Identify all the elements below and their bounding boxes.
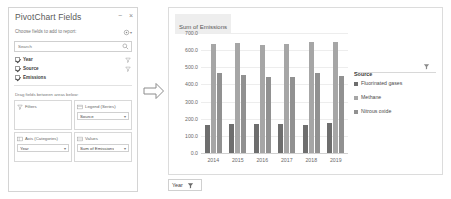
filter-icon[interactable] xyxy=(423,63,430,70)
x-axis-line xyxy=(201,153,348,154)
filter-icon[interactable] xyxy=(187,182,194,189)
y-axis-tick-label: 100.0 xyxy=(185,133,198,139)
y-axis-tick-label: 700.0 xyxy=(185,30,198,36)
page-title: PivotChart Fields xyxy=(15,11,133,23)
search-icon xyxy=(122,43,129,50)
zone-header: Values xyxy=(77,135,129,142)
zone-values[interactable]: Values Sum of Emissions ▾ xyxy=(74,132,132,162)
bar[interactable] xyxy=(254,124,259,154)
legend-item: Nitrous oxide xyxy=(354,108,436,115)
field-chip-sum-of-emissions[interactable]: Sum of Emissions ▾ xyxy=(77,144,129,152)
chevron-down-icon[interactable]: ▾ xyxy=(124,114,126,120)
zone-header: Axis (Categories) xyxy=(17,135,69,142)
bar[interactable] xyxy=(278,124,283,154)
bar-group: 2015 xyxy=(229,34,246,154)
drag-fields-hint: Drag fields between areas below: xyxy=(15,92,137,97)
legend: Source Fluorinated gasesMethaneNitrous o… xyxy=(354,62,436,115)
filter-icon[interactable] xyxy=(125,57,131,63)
zone-header: Legend (Series) xyxy=(77,103,129,110)
legend-header: Source xyxy=(354,62,436,73)
bar-series-container: 201420152016201720182019 xyxy=(201,34,348,154)
legend-item: Methane xyxy=(354,94,436,101)
fields-subtitle: Choose fields to add to report: xyxy=(15,26,133,37)
legend-title: Source xyxy=(354,71,372,77)
zone-title: Values xyxy=(85,136,98,142)
zone-axis-categories[interactable]: Axis (Categories) Year ▾ xyxy=(14,132,72,162)
pivotchart-fields-panel: PivotChart Fields − × Choose fields to a… xyxy=(8,7,138,192)
legend-icon xyxy=(77,104,83,110)
checkbox-year[interactable] xyxy=(15,57,20,62)
bar[interactable] xyxy=(290,77,295,154)
pivotchart-panel: Sum of Emissions 0.0100.0200.0300.0400.0… xyxy=(168,7,443,192)
checkbox-emissions[interactable] xyxy=(15,75,20,80)
bar[interactable] xyxy=(303,125,308,154)
zone-filters[interactable]: Filters xyxy=(14,100,72,130)
bar[interactable] xyxy=(235,43,240,154)
zone-title: Filters xyxy=(25,104,37,110)
search-box[interactable] xyxy=(14,41,132,52)
bar[interactable] xyxy=(260,45,265,154)
bar[interactable] xyxy=(205,125,210,154)
bar[interactable] xyxy=(309,42,314,154)
bar[interactable] xyxy=(327,123,332,154)
values-icon xyxy=(77,136,83,142)
drop-zones: Filters Legend (Series) Source ▾ xyxy=(14,100,132,162)
legend-label: Nitrous oxide xyxy=(361,108,391,115)
fields-subtitle-row: Choose fields to add to report: ▾ xyxy=(9,26,137,40)
x-axis-tick-label: 2014 xyxy=(207,157,219,163)
list-item[interactable]: Emissions xyxy=(14,73,132,82)
bar[interactable] xyxy=(284,44,289,154)
bar[interactable] xyxy=(241,75,246,154)
bar-group: 2017 xyxy=(278,34,295,154)
zone-title: Legend (Series) xyxy=(85,104,116,110)
search-input[interactable] xyxy=(18,42,108,51)
bar[interactable] xyxy=(315,73,320,154)
field-list: Year Source Emissions xyxy=(14,55,132,86)
legend-label: Methane xyxy=(361,94,381,101)
x-axis-tick-label: 2015 xyxy=(232,157,244,163)
bar-group: 2018 xyxy=(303,34,320,154)
bar[interactable] xyxy=(211,44,216,154)
list-item[interactable]: Year xyxy=(14,55,132,64)
zone-legend-series[interactable]: Legend (Series) Source ▾ xyxy=(74,100,132,130)
checkbox-source[interactable] xyxy=(15,66,20,71)
zone-title: Axis (Categories) xyxy=(25,136,58,142)
year-filter-button[interactable]: Year xyxy=(168,179,202,191)
legend-items: Fluorinated gasesMethaneNitrous oxide xyxy=(354,80,436,115)
legend-swatch xyxy=(354,110,358,114)
bar[interactable] xyxy=(339,76,344,154)
y-axis-tick-label: 300.0 xyxy=(185,99,198,105)
year-filter-label: Year xyxy=(172,181,183,189)
gear-icon[interactable]: ▾ xyxy=(123,27,132,37)
bar[interactable] xyxy=(266,77,271,154)
axis-icon xyxy=(17,136,23,142)
x-axis-tick-label: 2016 xyxy=(256,157,268,163)
chevron-down-icon[interactable]: ▾ xyxy=(64,146,66,152)
x-axis-tick-label: 2017 xyxy=(281,157,293,163)
bar-group: 2014 xyxy=(205,34,222,154)
y-axis-tick-label: 600.0 xyxy=(185,47,198,53)
minimize-icon[interactable]: − xyxy=(118,12,122,19)
legend-label: Fluorinated gases xyxy=(361,80,402,87)
chip-label: Year xyxy=(20,145,29,152)
field-label: Emissions xyxy=(23,74,46,81)
bar-group: 2019 xyxy=(327,34,344,154)
bar[interactable] xyxy=(217,73,222,154)
chevron-down-icon[interactable]: ▾ xyxy=(124,146,126,152)
list-item[interactable]: Source xyxy=(14,64,132,73)
right-arrow-icon xyxy=(143,82,165,100)
chip-label: Source xyxy=(80,113,94,120)
y-axis-tick-label: 400.0 xyxy=(185,81,198,87)
zone-header: Filters xyxy=(17,103,69,110)
y-axis-tick-label: 200.0 xyxy=(185,116,198,122)
filter-icon xyxy=(17,104,23,110)
plot-area: 0.0100.0200.0300.0400.0500.0600.0700.0 2… xyxy=(201,34,348,154)
bar[interactable] xyxy=(333,42,338,154)
field-label: Source xyxy=(23,65,39,72)
close-icon[interactable]: × xyxy=(129,12,133,19)
field-chip-year[interactable]: Year ▾ xyxy=(17,144,69,152)
field-chip-source[interactable]: Source ▾ xyxy=(77,112,129,120)
bar[interactable] xyxy=(229,124,234,154)
legend-item: Fluorinated gases xyxy=(354,80,436,87)
filter-icon[interactable] xyxy=(125,66,131,72)
